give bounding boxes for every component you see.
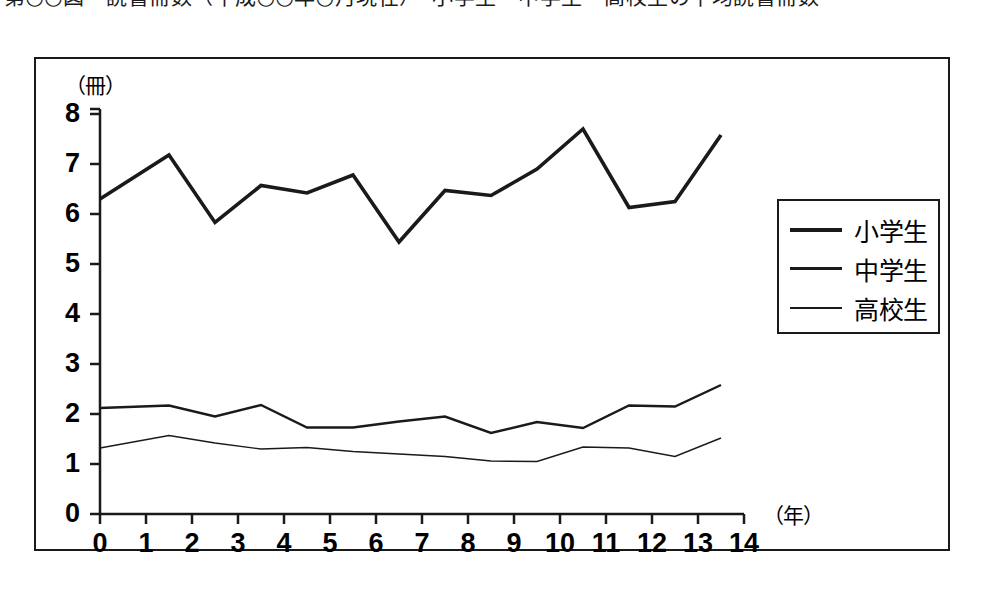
legend-line-glyph — [790, 228, 842, 232]
page-caption-strip: 第○○図 読書冊数（平成○○年○月現在） 小学生・中学生・高校生の平均読書冊数 — [0, 0, 985, 14]
x-tick-label: 9 — [494, 530, 534, 557]
legend-item-label: 高校生 — [842, 290, 928, 326]
series-line-0 — [100, 129, 721, 242]
x-tick-label: 7 — [402, 530, 442, 557]
legend-line-swatch — [790, 307, 842, 309]
legend-item-label: 小学生 — [842, 212, 928, 248]
y-axis-unit-label: （冊） — [65, 69, 125, 99]
y-tick-label: 2 — [52, 400, 80, 427]
legend-line-glyph — [790, 307, 842, 309]
x-axis-unit-label: （年） — [763, 499, 823, 529]
y-tick-label: 3 — [52, 350, 80, 377]
x-tick-label: 11 — [586, 530, 626, 557]
x-tick-label: 8 — [448, 530, 488, 557]
x-tick-label: 12 — [632, 530, 672, 557]
x-tick-label: 13 — [678, 530, 718, 557]
y-tick-label: 8 — [52, 100, 80, 127]
x-tick-label: 3 — [218, 530, 258, 557]
chart-legend: 小学生中学生高校生 — [777, 199, 940, 334]
x-tick-label: 4 — [264, 530, 304, 557]
series-line-1 — [100, 385, 721, 433]
y-tick-label: 4 — [52, 300, 80, 327]
page-caption-text: 第○○図 読書冊数（平成○○年○月現在） 小学生・中学生・高校生の平均読書冊数 — [4, 0, 819, 10]
legend-item[interactable]: 小学生 — [779, 210, 938, 249]
legend-line-swatch — [790, 228, 842, 232]
y-tick-label: 6 — [52, 200, 80, 227]
y-tick-label: 5 — [52, 250, 80, 277]
x-tick-label: 5 — [310, 530, 350, 557]
x-tick-label: 10 — [540, 530, 580, 557]
x-tick-label: 14 — [724, 530, 764, 557]
figure-frame: （冊） （年） 012345678 01234567891011121314 小… — [34, 57, 950, 551]
axes-group — [90, 109, 744, 524]
legend-item-label: 中学生 — [842, 251, 928, 287]
x-tick-label: 2 — [172, 530, 212, 557]
legend-item[interactable]: 高校生 — [779, 288, 938, 327]
x-tick-label: 0 — [80, 530, 120, 557]
legend-item[interactable]: 中学生 — [779, 249, 938, 288]
y-tick-label: 7 — [52, 150, 80, 177]
y-tick-label: 1 — [52, 450, 80, 477]
data-series-group — [100, 129, 721, 462]
legend-line-swatch — [790, 267, 842, 270]
x-tick-label: 6 — [356, 530, 396, 557]
series-line-2 — [100, 436, 721, 462]
legend-line-glyph — [790, 267, 842, 270]
x-tick-label: 1 — [126, 530, 166, 557]
y-tick-label: 0 — [52, 500, 80, 527]
